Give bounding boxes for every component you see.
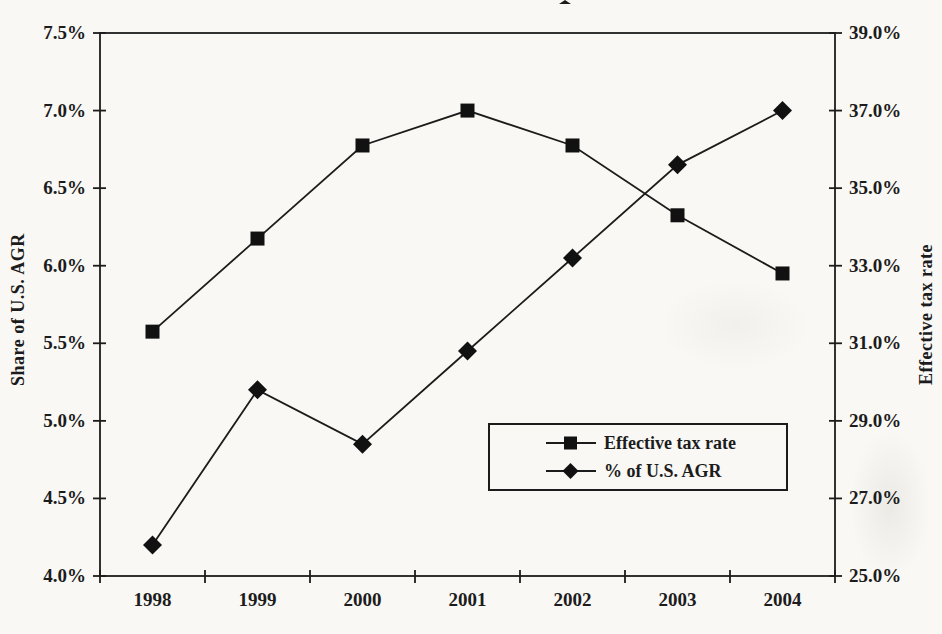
right-tick-label: 35.0% xyxy=(849,176,929,200)
effective-tax-rate-line xyxy=(153,111,783,332)
square-marker xyxy=(566,138,580,152)
square-marker-icon xyxy=(546,434,596,452)
legend-item-share-of-us-agr: % of U.S. AGR xyxy=(546,461,786,481)
left-tick-label: 6.0% xyxy=(24,254,86,278)
square-marker xyxy=(146,325,160,339)
right-tick-label: 37.0% xyxy=(849,99,929,123)
legend-item-effective-tax-rate: Effective tax rate xyxy=(546,433,786,453)
left-tick-label: 4.0% xyxy=(24,564,86,588)
left-tick-label: 7.5% xyxy=(24,21,86,45)
right-tick-label: 29.0% xyxy=(849,409,929,433)
x-tick-label: 1999 xyxy=(213,588,303,612)
legend-label: % of U.S. AGR xyxy=(604,461,722,482)
right-tick-label: 33.0% xyxy=(849,254,929,278)
square-marker xyxy=(356,138,370,152)
diamond-marker xyxy=(248,380,267,399)
diamond-marker xyxy=(143,535,162,554)
x-tick-label: 2001 xyxy=(423,588,513,612)
x-tick-label: 2004 xyxy=(738,588,828,612)
square-marker xyxy=(671,208,685,222)
x-tick-label: 2000 xyxy=(318,588,408,612)
square-marker xyxy=(251,232,265,246)
left-tick-label: 6.5% xyxy=(24,176,86,200)
left-tick-label: 4.5% xyxy=(24,486,86,510)
line-chart-plot xyxy=(0,0,942,634)
x-tick-label: 1998 xyxy=(108,588,198,612)
square-marker xyxy=(461,104,475,118)
right-tick-label: 25.0% xyxy=(849,564,929,588)
legend-label: Effective tax rate xyxy=(604,433,736,454)
diamond-marker xyxy=(773,101,792,120)
left-tick-label: 5.5% xyxy=(24,331,86,355)
left-tick-label: 7.0% xyxy=(24,99,86,123)
legend: Effective tax rate % of U.S. AGR xyxy=(488,423,788,491)
x-tick-label: 2002 xyxy=(528,588,618,612)
right-tick-label: 31.0% xyxy=(849,331,929,355)
diamond-marker-icon xyxy=(546,462,596,480)
right-tick-label: 27.0% xyxy=(849,486,929,510)
square-marker xyxy=(776,266,790,280)
x-tick-label: 2003 xyxy=(633,588,723,612)
right-tick-label: 39.0% xyxy=(849,21,929,45)
scanned-line-chart-page: Share of U.S. AGR Effective tax rate 7.5… xyxy=(0,0,942,634)
left-tick-label: 5.0% xyxy=(24,409,86,433)
